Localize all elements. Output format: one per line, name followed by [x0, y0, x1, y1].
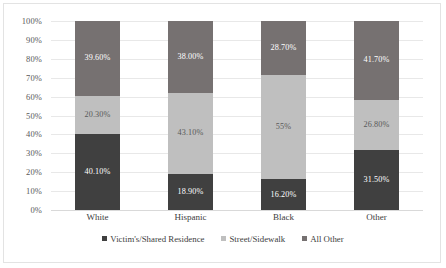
y-axis-tick-label: 10% — [26, 186, 42, 196]
legend-item[interactable]: Victim's/Shared Residence — [102, 234, 204, 244]
legend-label: Victim's/Shared Residence — [110, 234, 204, 244]
bar-segment-value-label: 55% — [276, 123, 291, 131]
bar-segment[interactable]: 18.90% — [168, 174, 213, 210]
x-axis-category-label: Hispanic — [144, 212, 237, 222]
plot-area: 40.10%20.30%39.60%18.90%43.10%38.00%16.2… — [51, 21, 423, 210]
bar-segment-value-label: 40.10% — [85, 168, 111, 176]
x-axis-category-label: White — [51, 212, 144, 222]
bar-stack: 40.10%20.30%39.60% — [75, 21, 120, 210]
bar-segment-value-label: 28.70% — [271, 44, 297, 52]
legend-label: All Other — [310, 234, 343, 244]
y-axis: 0%10%20%30%40%50%60%70%80%90%100% — [4, 21, 47, 210]
bar-segment-value-label: 20.30% — [85, 111, 111, 119]
bar-segment[interactable]: 20.30% — [75, 96, 120, 134]
x-axis-category-label: Other — [330, 212, 423, 222]
y-axis-tick-label: 90% — [26, 35, 42, 45]
gridline — [51, 210, 423, 211]
bar-segment[interactable]: 16.20% — [261, 179, 306, 210]
y-axis-tick-label: 80% — [26, 54, 42, 64]
bar-segment[interactable]: 55% — [261, 75, 306, 179]
bar-segment-value-label: 41.70% — [364, 56, 390, 64]
y-axis-tick-label: 70% — [26, 73, 42, 83]
bar-stack: 16.20%55%28.70% — [261, 21, 306, 210]
bar-group[interactable]: 31.50%26.80%41.70% — [354, 21, 399, 210]
bar-stack: 31.50%26.80%41.70% — [354, 21, 399, 210]
x-axis-category-label: Black — [237, 212, 330, 222]
bar-segment[interactable]: 40.10% — [75, 134, 120, 210]
bar-segment-value-label: 26.80% — [364, 121, 390, 129]
bar-group[interactable]: 16.20%55%28.70% — [261, 21, 306, 210]
y-axis-tick-label: 30% — [26, 148, 42, 158]
legend-item[interactable]: Street/Sidewalk — [221, 234, 285, 244]
bar-group[interactable]: 40.10%20.30%39.60% — [75, 21, 120, 210]
bar-segment[interactable]: 39.60% — [75, 21, 120, 96]
legend-item[interactable]: All Other — [302, 234, 343, 244]
bar-segment[interactable]: 28.70% — [261, 21, 306, 75]
y-axis-tick-label: 40% — [26, 129, 42, 139]
bar-segment[interactable]: 38.00% — [168, 21, 213, 93]
bar-segment-value-label: 39.60% — [85, 54, 111, 62]
bar-segment-value-label: 18.90% — [178, 188, 204, 196]
bar-segment-value-label: 31.50% — [364, 176, 390, 184]
bar-segment-value-label: 38.00% — [178, 53, 204, 61]
x-axis: WhiteHispanicBlackOther — [51, 212, 423, 228]
chart-container: 0%10%20%30%40%50%60%70%80%90%100% 40.10%… — [3, 3, 441, 263]
bar-segment-value-label: 43.10% — [178, 129, 204, 137]
chart-legend: Victim's/Shared ResidenceStreet/Sidewalk… — [4, 234, 442, 244]
y-axis-tick-label: 20% — [26, 167, 42, 177]
legend-label: Street/Sidewalk — [229, 234, 285, 244]
bar-segment[interactable]: 31.50% — [354, 150, 399, 210]
y-axis-tick-label: 50% — [26, 111, 42, 121]
y-axis-tick-label: 60% — [26, 92, 42, 102]
bar-segment-value-label: 16.20% — [271, 191, 297, 199]
bar-segment[interactable]: 41.70% — [354, 21, 399, 100]
legend-swatch-icon — [102, 236, 107, 241]
y-axis-tick-label: 0% — [30, 205, 42, 215]
bar-stack: 18.90%43.10%38.00% — [168, 21, 213, 210]
legend-swatch-icon — [302, 236, 307, 241]
bar-segment[interactable]: 26.80% — [354, 100, 399, 151]
legend-swatch-icon — [221, 236, 226, 241]
y-axis-tick-label: 100% — [22, 16, 42, 26]
bar-group[interactable]: 18.90%43.10%38.00% — [168, 21, 213, 210]
bar-segment[interactable]: 43.10% — [168, 93, 213, 174]
